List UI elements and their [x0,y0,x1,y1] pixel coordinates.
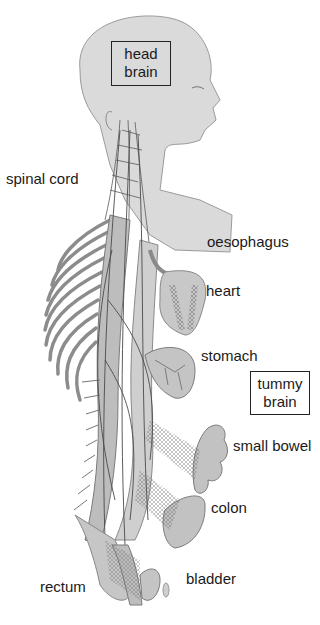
label-small-bowel: small bowel [233,438,311,453]
label-rectum: rectum [40,579,86,594]
tummy-brain-box: tummy brain [250,371,310,415]
head-brain-box: head brain [111,41,171,86]
tummy-brain-line2: brain [251,393,309,411]
stomach-organ [145,347,195,398]
tummy-brain-line1: tummy [251,375,309,393]
bladder-organ [140,569,160,600]
label-bladder: bladder [186,571,236,586]
anatomy-illustration [0,0,320,625]
label-heart: heart [206,283,240,298]
label-stomach: stomach [201,348,258,363]
label-oesophagus: oesophagus [207,234,289,249]
head-brain-line1: head [112,45,170,63]
label-colon: colon [211,500,247,515]
label-spinal-cord: spinal cord [6,171,79,186]
bladder-small-part [163,583,169,597]
head-brain-line2: brain [112,63,170,81]
